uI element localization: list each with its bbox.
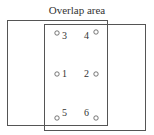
point-4-marker bbox=[94, 30, 98, 34]
point-2-label: 2 bbox=[84, 68, 89, 79]
point-5-label: 5 bbox=[62, 107, 67, 118]
point-1-marker bbox=[55, 72, 59, 76]
diagram-canvas: 341256 bbox=[0, 0, 154, 135]
overlap-diagram: Overlap area 341256 bbox=[0, 0, 154, 135]
point-1-label: 1 bbox=[62, 68, 67, 79]
right-rectangle bbox=[45, 25, 146, 131]
points-group: 341256 bbox=[55, 30, 98, 120]
point-3-label: 3 bbox=[62, 30, 67, 41]
point-6-marker bbox=[94, 116, 98, 120]
point-3-marker bbox=[55, 31, 59, 35]
point-4-label: 4 bbox=[84, 30, 89, 41]
left-rectangle bbox=[8, 21, 108, 126]
point-6-label: 6 bbox=[84, 107, 89, 118]
point-2-marker bbox=[94, 72, 98, 76]
point-5-marker bbox=[55, 116, 59, 120]
